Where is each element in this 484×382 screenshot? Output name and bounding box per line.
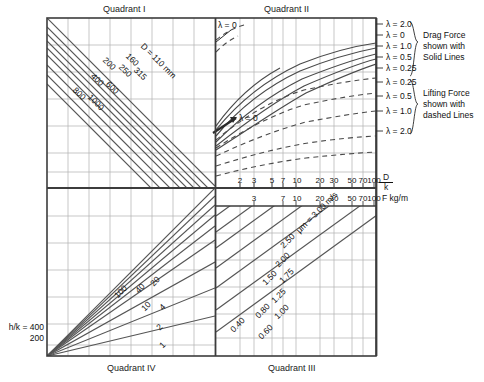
lambda-zero-top-arrow	[216, 30, 231, 42]
tick-dk-50: 50	[348, 176, 357, 185]
quadrant-3-label: Quadrant III	[268, 363, 316, 373]
tick-f-70: 70	[359, 194, 368, 203]
tick-dk-3: 3	[252, 176, 256, 185]
tick-dk-20: 20	[316, 176, 325, 185]
legend-entry-drag-3: λ = 0.5	[386, 52, 412, 63]
legend-text-drag-0: Drag Force	[423, 30, 466, 41]
legend-entry-lift-2: λ = 1.0	[386, 106, 412, 117]
legend-entry-drag-4: λ = 0.25	[386, 63, 416, 74]
axis-symbol-dk-numerator: D	[383, 172, 389, 182]
quadrant-2-label: Quadrant II	[264, 4, 309, 14]
tick-f-3: 3	[252, 194, 256, 203]
legend-text-lift-1: shown with	[423, 99, 465, 110]
legend-entry-lift-0: λ = 0.25	[386, 77, 416, 88]
legend-text-drag-1: shown with	[423, 41, 465, 52]
legend-text-lift-2: dashed Lines	[423, 110, 474, 121]
legend-entry-lift-3: λ = 2.0	[386, 126, 412, 137]
tick-dk-70: 70	[359, 176, 368, 185]
axis-label-hk-200: 200	[4, 333, 44, 343]
tick-dk-5: 5	[270, 176, 274, 185]
axis-label-f: F kg/m	[382, 193, 408, 203]
chart-frame	[47, 18, 377, 356]
tick-f-50: 50	[348, 194, 357, 203]
legend-entry-drag-2: λ = 1.0	[386, 41, 412, 52]
tick-f-100: 100	[367, 194, 380, 203]
tick-dk-7: 7	[281, 176, 285, 185]
tick-f-7: 7	[281, 194, 285, 203]
legend-text-drag-2: Solid Lines	[423, 52, 465, 63]
lambda-mid-label: λ = 0	[239, 113, 258, 123]
quadrant-4-label: Quadrant IV	[107, 363, 156, 373]
curve-lift-top-dash-2	[216, 36, 238, 52]
tick-dk-30: 30	[330, 176, 339, 185]
lambda-top-label: λ = 0	[218, 20, 237, 30]
grid-quadrant-2	[216, 18, 376, 188]
legend-entry-drag-0: λ = 2.0	[386, 19, 412, 30]
legend-text-lift-0: Lifting Force	[423, 88, 470, 99]
tick-f-10: 10	[293, 194, 302, 203]
legend-entry-lift-1: λ = 0.5	[386, 91, 412, 102]
quadrant-1-label: Quadrant I	[103, 4, 146, 14]
axis-symbol-dk-denominator: k	[379, 182, 393, 192]
tick-dk-2: 2	[238, 176, 242, 185]
axis-label-hk-400: h/k = 400	[4, 322, 44, 332]
legend-entry-drag-1: λ = 0	[386, 30, 405, 41]
axis-symbol-dk: D k	[379, 173, 393, 192]
tick-dk-10: 10	[293, 176, 302, 185]
